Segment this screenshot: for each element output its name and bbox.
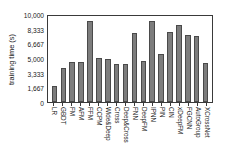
x-axis-label-slot: DeepFM — [139, 106, 148, 152]
x-axis-label-slot: AFM — [76, 106, 85, 152]
x-axis-tick-label: Wide&Deep — [104, 107, 111, 141]
bar — [132, 33, 138, 102]
bar-slot — [139, 16, 148, 102]
y-axis-tick-label: 8,333 — [16, 26, 44, 33]
x-axis-tick-label: GBDT — [59, 107, 66, 125]
bar — [203, 63, 209, 102]
bar — [105, 59, 111, 102]
x-axis-tick-label: CCPM — [95, 107, 102, 126]
x-axis-label-slot: Cross — [112, 106, 121, 152]
x-axis-tick-label: PIN — [158, 107, 165, 118]
x-axis-tick-label: Cross — [113, 107, 120, 123]
x-axis-label-slot: PIN — [157, 106, 166, 152]
bar — [158, 54, 164, 102]
bar-slot — [103, 16, 112, 102]
y-axis-tick-labels: 01,6673,3335,0006,6678,33310,000 — [16, 11, 44, 107]
x-axis-label-slot: FGCNN — [184, 106, 193, 152]
x-axis-label-slot: XCrossNet — [202, 106, 211, 152]
x-axis-tick-label: AFM — [77, 107, 84, 120]
x-axis-tick-label: AutoGroup — [194, 107, 201, 137]
x-axis-label-slot: xDeepFM — [175, 106, 184, 152]
x-axis-tick-label: xDeepFM — [176, 107, 183, 134]
x-axis-tick-label: IPNN — [149, 107, 156, 122]
bar-slot — [86, 16, 95, 102]
bar-slot — [112, 16, 121, 102]
y-axis-tick-label: 6,667 — [16, 41, 44, 48]
x-axis-label-slot: CIN — [166, 106, 175, 152]
bar-slot — [148, 16, 157, 102]
x-axis-label-slot: AutoGroup — [193, 106, 202, 152]
x-axis-label-slot: Wide&Deep — [103, 106, 112, 152]
bar-slot — [68, 16, 77, 102]
y-axis-tick-label: 1,667 — [16, 85, 44, 92]
x-axis-label-slot: IPNN — [148, 106, 157, 152]
bar-slot — [183, 16, 192, 102]
x-axis-tick-label: FFM — [86, 107, 93, 120]
x-axis-label-slot: CCPM — [94, 106, 103, 152]
bar — [194, 36, 200, 102]
bar-series — [48, 16, 212, 102]
x-axis-tick-label: FNN — [131, 107, 138, 120]
plot-area — [47, 15, 213, 103]
bar — [185, 35, 191, 102]
bar-slot — [77, 16, 86, 102]
bar — [96, 58, 102, 102]
chart-figure: training time (s) 01,6673,3335,0006,6678… — [0, 0, 226, 153]
bar-slot — [121, 16, 130, 102]
bar-slot — [201, 16, 210, 102]
bar — [141, 61, 147, 102]
x-axis-label-slot: Deep&Cross — [121, 106, 130, 152]
x-axis-tick-label: DeepFM — [140, 107, 147, 131]
bar — [176, 25, 182, 102]
x-axis-label-slot: FM — [67, 106, 76, 152]
y-axis-tick-label: 3,333 — [16, 70, 44, 77]
y-axis-title: training time (s) — [7, 34, 16, 85]
x-axis-tick-label: FGCNN — [185, 107, 192, 129]
x-axis-tick-label: FM — [68, 107, 75, 116]
bar — [61, 68, 67, 102]
x-axis-tick-label: Deep&Cross — [122, 107, 129, 143]
bar-slot — [192, 16, 201, 102]
x-axis-label-slot: LR — [49, 106, 58, 152]
bar-slot — [94, 16, 103, 102]
x-axis-label-slot: FNN — [130, 106, 139, 152]
bar-slot — [166, 16, 175, 102]
x-axis-label-slot: GBDT — [58, 106, 67, 152]
y-axis-tick-label: 0 — [16, 100, 44, 107]
bar-slot — [50, 16, 59, 102]
x-axis-tick-label: XCrossNet — [203, 107, 210, 137]
y-axis-tick-label: 10,000 — [16, 12, 44, 19]
bar — [167, 32, 173, 102]
bar — [69, 62, 75, 102]
bar-slot — [157, 16, 166, 102]
bar — [123, 64, 129, 102]
bar — [78, 62, 84, 102]
bar-slot — [174, 16, 183, 102]
bar — [149, 21, 155, 102]
bar — [87, 21, 93, 102]
x-axis-tick-label: CIN — [167, 107, 174, 118]
bar — [52, 86, 58, 102]
bar-slot — [130, 16, 139, 102]
bar-slot — [59, 16, 68, 102]
x-axis-tick-label: LR — [50, 107, 57, 115]
y-axis-tick-label: 5,000 — [16, 56, 44, 63]
bar — [114, 64, 120, 102]
x-axis-label-slot: FFM — [85, 106, 94, 152]
x-axis-tick-labels: LRGBDTFMAFMFFMCCPMWide&DeepCrossDeep&Cro… — [47, 106, 213, 152]
